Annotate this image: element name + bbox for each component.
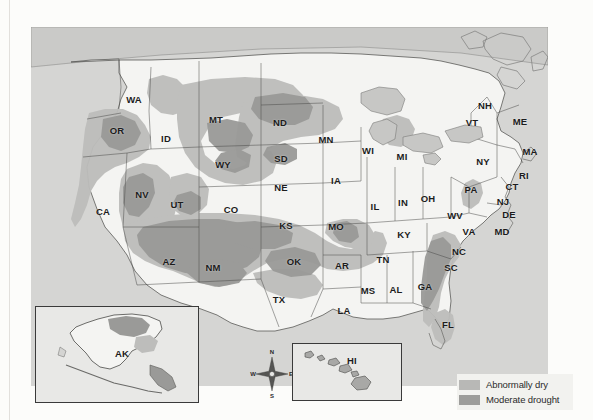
state-label-il: IL	[371, 201, 380, 212]
state-label-wa: WA	[126, 94, 142, 105]
state-label-nv: NV	[135, 189, 149, 200]
alaska-island	[58, 347, 66, 357]
compass-icon	[251, 349, 293, 399]
alaska-peninsula-shading	[150, 365, 176, 391]
state-label-id: ID	[161, 133, 171, 144]
state-label-sd: SD	[274, 153, 288, 164]
state-label-ks: KS	[279, 220, 293, 231]
state-label-co: CO	[224, 204, 239, 215]
compass-south-label: S	[270, 393, 274, 399]
compass-rose: N S W E	[251, 349, 293, 399]
state-label-hi: HI	[347, 355, 357, 366]
state-label-ct: CT	[505, 181, 518, 192]
state-label-ri: RI	[519, 170, 529, 181]
aleutian-chain	[66, 365, 162, 393]
hawaii-islands	[305, 351, 371, 390]
drought-map-panel: WAORIDMTNDMNWIMIWYSDNEIANVUTCOCAKSMOILIN…	[31, 27, 548, 386]
state-label-oh: OH	[421, 193, 436, 204]
state-label-wi: WI	[362, 145, 374, 156]
state-label-az: AZ	[162, 256, 175, 267]
state-label-fl: FL	[442, 319, 454, 330]
state-label-ut: UT	[170, 199, 183, 210]
state-label-mt: MT	[209, 114, 223, 125]
state-label-nm: NM	[205, 262, 220, 273]
legend-item-moderate-drought: Moderate drought	[459, 392, 571, 407]
state-label-tn: TN	[376, 254, 389, 265]
state-label-mo: MO	[328, 221, 344, 232]
legend-label-moderate-drought: Moderate drought	[486, 394, 559, 405]
state-label-nj: NJ	[497, 196, 510, 207]
state-label-mn: MN	[318, 134, 333, 145]
page-gutter-line	[9, 0, 10, 420]
state-label-ar: AR	[335, 260, 349, 271]
hawaii-inset-box: HI	[292, 343, 402, 401]
state-label-ma: MA	[522, 146, 537, 157]
state-label-mi: MI	[397, 151, 408, 162]
state-label-nd: ND	[273, 117, 287, 128]
state-label-la: LA	[337, 305, 350, 316]
state-label-pa: PA	[465, 184, 478, 195]
state-label-vt: VT	[466, 117, 479, 128]
state-label-ia: IA	[331, 175, 341, 186]
legend-item-abnormally-dry: Abnormally dry	[459, 377, 571, 392]
state-label-ga: GA	[418, 281, 433, 292]
state-label-ms: MS	[361, 285, 376, 296]
state-label-ak: AK	[115, 348, 129, 359]
state-label-nh: NH	[478, 100, 492, 111]
abnormally-dry-swatch	[459, 380, 480, 390]
alaska-inset-box: AK	[35, 306, 199, 403]
state-label-nc: NC	[452, 246, 466, 257]
state-label-tx: TX	[273, 294, 286, 305]
state-label-or: OR	[110, 125, 125, 136]
state-label-al: AL	[389, 284, 402, 295]
state-label-ca: CA	[96, 206, 110, 217]
state-label-de: DE	[502, 209, 516, 220]
compass-north-label: N	[270, 349, 274, 355]
page-background: WAORIDMTNDMNWIMIWYSDNEIANVUTCOCAKSMOILIN…	[0, 0, 593, 420]
legend-label-abnormally-dry: Abnormally dry	[486, 379, 548, 390]
state-label-va: VA	[463, 226, 476, 237]
state-label-in: IN	[398, 197, 408, 208]
state-label-ny: NY	[476, 156, 490, 167]
state-label-wy: WY	[215, 159, 231, 170]
state-label-ok: OK	[287, 256, 302, 267]
state-label-md: MD	[494, 226, 509, 237]
hawaii-map-graphic	[293, 344, 400, 399]
compass-west-label: W	[250, 371, 256, 377]
state-label-wv: WV	[447, 210, 463, 221]
state-label-sc: SC	[444, 262, 458, 273]
state-label-me: ME	[513, 116, 528, 127]
state-label-ne: NE	[274, 182, 288, 193]
map-legend: Abnormally dry Moderate drought	[457, 374, 573, 410]
moderate-drought-swatch	[459, 395, 480, 405]
state-label-ky: KY	[397, 229, 411, 240]
